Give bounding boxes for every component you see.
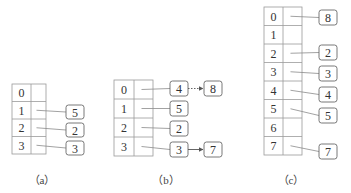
bucket-pointer [291,90,320,94]
list-node: 5 [291,108,338,123]
node-value: 2 [176,122,182,136]
list-node: 3 [142,142,189,157]
hash-table: 01234567 [264,7,302,155]
bucket-index: 1 [271,28,277,42]
bucket-pointer [291,53,320,54]
list-node: 3 [291,66,338,81]
bucket-index: 5 [271,102,277,116]
bucket-index: 3 [271,65,277,79]
list-node: 7 [204,142,222,157]
bucket-index: 6 [271,121,277,135]
list-node: 8 [204,81,222,96]
bucket-pointer [291,72,320,74]
bucket-pointer [142,128,171,129]
bucket-pointer [37,110,67,112]
bucket-index: 0 [271,10,277,24]
node-value: 3 [176,143,182,157]
diagram-a: 0123523（a） [12,84,84,186]
bucket-index: 2 [271,47,277,61]
node-value: 4 [176,82,182,96]
diagram-b: 0123485237（b） [114,80,222,186]
figure-caption: （a） [29,174,56,186]
bucket-index: 2 [121,121,127,135]
figure-caption: （c） [278,174,305,186]
bucket-pointer [291,16,320,17]
list-node: 4 [142,81,189,96]
bucket-index: 1 [121,102,127,116]
bucket-pointer [37,128,67,130]
figure-caption: （b） [152,174,180,186]
bucket-pointer [37,145,67,148]
bucket-index: 7 [271,139,277,153]
node-value: 8 [325,11,331,25]
bucket-index: 3 [19,139,25,153]
node-value: 4 [325,88,331,102]
node-value: 3 [72,142,78,156]
node-value: 8 [210,82,216,96]
node-value: 5 [72,106,78,120]
node-value: 5 [176,102,182,116]
list-node: 7 [291,144,338,159]
bucket-index: 0 [121,83,127,97]
hash-table-diagrams: 0123523（a） 0123485237（b） 01234567823457（… [0,0,351,193]
node-value: 7 [210,143,216,157]
diagram-c: 01234567823457（c） [264,7,337,186]
node-value: 7 [325,145,331,159]
bucket-pointer [291,146,320,152]
bucket-pointer [291,109,320,116]
node-value: 5 [325,109,331,123]
list-node: 8 [291,10,338,25]
bucket-pointer [142,89,171,90]
bucket-index: 4 [271,84,277,98]
bucket-index: 3 [121,140,127,154]
bucket-pointer [142,147,171,150]
hash-table: 0123 [114,80,153,156]
hash-table: 0123 [12,84,46,154]
list-node: 2 [142,121,189,136]
bucket-index: 0 [19,86,25,100]
list-node: 3 [37,141,85,156]
bucket-index: 2 [19,121,25,135]
list-node: 5 [37,105,85,120]
node-value: 2 [72,124,78,138]
bucket-index: 1 [19,104,25,118]
node-value: 2 [325,46,331,60]
list-node: 2 [37,123,85,138]
node-value: 3 [325,67,331,81]
list-node: 5 [142,101,189,116]
list-node: 2 [291,45,338,60]
